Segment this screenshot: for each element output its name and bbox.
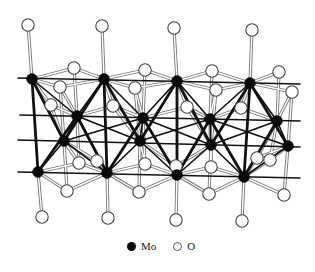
bond — [32, 79, 38, 172]
molybdenum-atom — [283, 141, 294, 152]
molybdenum-atom — [172, 170, 183, 181]
legend-label-mo: Mo — [141, 240, 156, 252]
molybdenum-atom — [27, 74, 38, 85]
oxygen-atom — [61, 185, 73, 197]
molybdenum-atom — [72, 111, 83, 122]
oxygen-atom — [206, 65, 218, 77]
oxygen-atom — [36, 211, 48, 223]
oxygen-atom — [181, 101, 193, 113]
mo-atom-icon — [127, 242, 136, 251]
molybdenum-atom — [172, 76, 183, 87]
molybdenum-atom — [206, 140, 217, 151]
oxygen-atom — [273, 66, 285, 78]
oxygen-atom — [107, 100, 119, 112]
molybdenum-atom — [59, 136, 70, 147]
oxygen-atom — [264, 154, 276, 166]
molybdenum-atom — [245, 78, 256, 89]
oxygen-atom — [129, 82, 141, 94]
oxygen-atom — [96, 20, 108, 32]
oxygen-atom — [91, 155, 103, 167]
oxygen-atom — [102, 212, 114, 224]
molybdenum-atom — [272, 116, 283, 127]
oxygen-atom — [22, 19, 34, 31]
oxygen-atom — [210, 84, 222, 96]
oxygen-atom — [251, 152, 263, 164]
oxygen-atom — [45, 99, 57, 111]
molybdenum-atom — [99, 74, 110, 85]
bond — [107, 173, 108, 218]
structure-svg — [0, 0, 315, 272]
bond — [143, 107, 187, 118]
crystal-structure-diagram — [0, 0, 315, 272]
oxygen-atom — [168, 22, 180, 34]
molybdenum-atom — [102, 168, 113, 179]
o-atom-icon — [173, 242, 182, 251]
oxygen-atom — [170, 214, 182, 226]
oxygen-atom — [203, 188, 215, 200]
legend-item-o: O — [156, 240, 195, 252]
molybdenum-atom — [205, 114, 216, 125]
oxygen-atom — [139, 64, 151, 76]
oxygen-atom — [54, 81, 66, 93]
molybdenum-atom — [138, 113, 149, 124]
oxygen-atom — [246, 24, 258, 36]
oxygen-atom — [139, 158, 151, 170]
bond — [176, 175, 177, 220]
molybdenum-atom — [239, 172, 250, 183]
bond — [104, 79, 107, 173]
legend-item-mo: Mo — [127, 240, 156, 252]
oxygen-atom — [278, 189, 290, 201]
molybdenum-atom — [33, 167, 44, 178]
oxygen-atom — [73, 157, 85, 169]
bond — [177, 81, 211, 145]
oxygen-atom — [235, 102, 247, 114]
oxygen-atom — [133, 186, 145, 198]
oxygen-atom — [205, 161, 217, 173]
legend-label-o: O — [187, 240, 195, 252]
bond — [18, 172, 300, 178]
legend: Mo O — [127, 240, 195, 252]
oxygen-atom — [286, 86, 298, 98]
oxygen-atom — [236, 215, 248, 227]
octahedra-edges — [32, 79, 288, 177]
oxygen-atom — [68, 62, 80, 74]
molybdenum-atom — [135, 136, 146, 147]
